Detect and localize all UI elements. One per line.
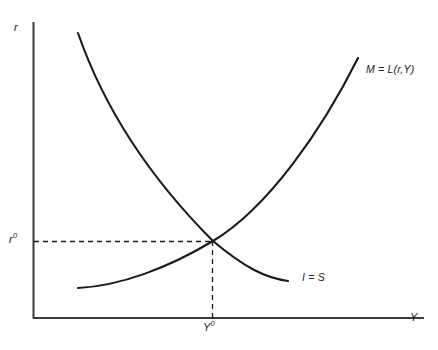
is-lm-diagram: r Y r0 Y0 M = L(r,Y) I = S <box>0 0 438 350</box>
x-tick-base: Y <box>203 321 211 333</box>
is-curve <box>78 33 288 281</box>
y-tick-superscript: 0 <box>13 231 17 240</box>
plot-canvas <box>0 0 438 350</box>
lm-curve <box>78 58 358 288</box>
x-tick-superscript: 0 <box>211 319 215 328</box>
y-axis-label: r <box>14 22 18 33</box>
is-curve-label: I = S <box>302 272 325 283</box>
y-tick-label-r0: r0 <box>9 234 17 245</box>
x-tick-label-Y0: Y0 <box>203 322 215 333</box>
lm-curve-label: M = L(r,Y) <box>366 64 414 75</box>
x-axis-label: Y <box>410 312 418 323</box>
